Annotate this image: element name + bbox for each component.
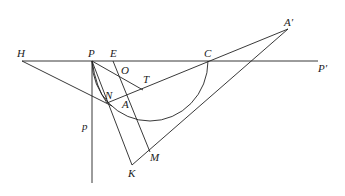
label-P-prime: P′	[317, 62, 328, 74]
label-O: O	[121, 64, 129, 76]
label-N: N	[104, 89, 113, 101]
label-P: P	[87, 47, 95, 59]
label-E: E	[109, 47, 117, 59]
line-P-K	[92, 61, 132, 165]
label-T: T	[143, 73, 150, 85]
line-N-Aprime	[107, 29, 288, 103]
label-M: M	[149, 151, 160, 163]
label-H: H	[16, 47, 26, 59]
label-p: p	[81, 120, 88, 132]
label-K: K	[127, 167, 136, 179]
line-H-N	[22, 61, 112, 106]
geometry-diagram: H P E C A′ P′ O T N A p M K	[0, 0, 345, 196]
label-A-prime: A′	[283, 16, 294, 28]
line-P-T	[92, 61, 143, 90]
label-A: A	[121, 98, 129, 110]
label-C: C	[204, 47, 212, 59]
